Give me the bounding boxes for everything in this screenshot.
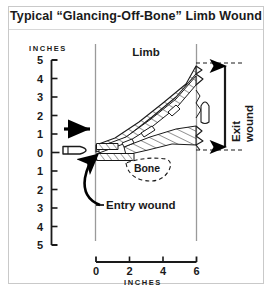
y-axis xyxy=(52,60,60,245)
x-tick-label: 2 xyxy=(126,265,132,277)
exiting-bullet xyxy=(201,102,209,124)
y-tick-label: 0 xyxy=(37,147,43,159)
y-tick-label: 4 xyxy=(37,221,44,233)
y-tick-label: 3 xyxy=(37,91,43,103)
exit-wound-label: Exit wound xyxy=(230,105,255,143)
x-tick-label: 4 xyxy=(160,265,167,277)
y-tick-label: 5 xyxy=(37,54,43,66)
y-tick-label: 2 xyxy=(37,110,43,122)
entry-wound-label: Entry wound xyxy=(106,199,176,211)
entry-track-lower xyxy=(97,154,135,161)
entry-wound-callout-arrow xyxy=(85,157,100,205)
limb-label: Limb xyxy=(132,46,159,58)
x-axis-unit-label: INCHES xyxy=(124,278,162,287)
exit-wound-label-line1: Exit xyxy=(230,121,242,142)
y-axis-unit-label: INCHES xyxy=(29,44,67,53)
x-tick-label: 0 xyxy=(93,265,99,277)
y-tick-label: 4 xyxy=(37,73,44,85)
y-tick-label: 3 xyxy=(37,202,43,214)
y-tick-label: 2 xyxy=(37,184,43,196)
diagram-canvas: INCHES 5 4 3 2 1 0 1 2 3 4 5 0 2 4 6 INC… xyxy=(0,0,273,292)
figure-root: Typical “Glancing-Off-Bone” Limb Wound xyxy=(0,0,273,292)
bone-label: Bone xyxy=(134,162,160,174)
x-axis xyxy=(96,257,197,263)
incoming-bullet xyxy=(63,147,86,155)
exit-wound-label-line2: wound xyxy=(243,105,255,143)
y-tick-label: 1 xyxy=(37,128,43,140)
y-tick-label: 5 xyxy=(37,239,43,251)
y-tick-label: 1 xyxy=(37,165,43,177)
entry-track-upper xyxy=(97,144,119,150)
x-tick-label: 6 xyxy=(193,265,199,277)
